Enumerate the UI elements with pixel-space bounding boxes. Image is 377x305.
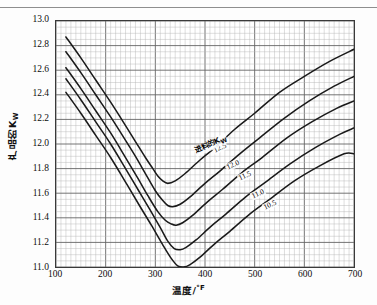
y-axis-title-sub: W: [12, 112, 20, 120]
x-axis-title-unit: °F: [196, 284, 205, 292]
x-tick-label: 400: [198, 270, 212, 280]
x-tick-label: 700: [348, 270, 362, 280]
y-axis-title-text: 产品的K: [7, 120, 18, 159]
y-tick-label: 13.0: [32, 15, 49, 25]
y-axis-title: 产品的KW: [6, 112, 20, 160]
x-tick-label: 300: [148, 270, 162, 280]
y-tick-label: 11.8: [33, 164, 49, 174]
x-tick-label: 600: [298, 270, 312, 280]
series-legend-header-sub: W: [219, 135, 228, 144]
x-tick-label: 100: [48, 270, 62, 280]
y-tick-label: 12.6: [32, 65, 49, 75]
y-tick-label: 12.0: [32, 139, 49, 149]
figure-page: 11.011.211.411.611.812.012.212.412.612.8…: [0, 0, 377, 305]
y-tick-label: 12.4: [32, 90, 49, 100]
x-tick-label: 200: [98, 270, 112, 280]
y-tick-label: 11.2: [33, 238, 49, 248]
y-tick-label: 11.4: [33, 214, 49, 224]
y-tick-label: 11.6: [33, 189, 49, 199]
y-tick-label: 12.2: [32, 114, 49, 124]
x-axis-title: 温度/°F: [0, 283, 377, 297]
x-axis-title-text: 温度/: [172, 285, 196, 296]
chart-figure: 11.011.211.411.611.812.012.212.412.612.8…: [0, 8, 377, 305]
y-tick-label: 12.8: [32, 40, 49, 50]
x-tick-label: 500: [248, 270, 262, 280]
y-tick-label: 11.0: [33, 263, 49, 273]
